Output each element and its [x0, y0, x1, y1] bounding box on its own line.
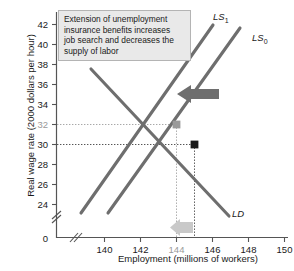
- y-axis-ticks: [52, 25, 57, 205]
- curve-label-ls1-text: LS: [213, 11, 225, 22]
- x-tick-150: 150: [272, 244, 294, 255]
- curve-label-ld: LD: [232, 208, 244, 219]
- y-axis-title: Real wage rate (2000 dollars per hour): [25, 26, 36, 206]
- y-axis-zero: 0: [26, 233, 48, 244]
- employment-decrease-arrow-icon: [170, 219, 193, 236]
- x-axis-ticks: [105, 238, 285, 243]
- curve-label-ls0-text: LS: [252, 32, 264, 43]
- note-line-4: supply of labor: [64, 46, 185, 57]
- x-axis-title: Employment (millions of workers): [118, 253, 258, 264]
- note-line-1: Extension of unemployment: [64, 14, 185, 25]
- curve-label-ls1-sub: 1: [225, 17, 229, 24]
- curve-label-ls0: LS0: [252, 32, 268, 45]
- marker-new-equilibrium: [173, 121, 181, 129]
- annotation-note-box: Extension of unemployment insurance bene…: [58, 10, 191, 61]
- marker-original-equilibrium: [191, 141, 199, 149]
- curve-label-ls0-sub: 0: [264, 38, 268, 45]
- x-tick-140: 140: [92, 244, 118, 255]
- labor-market-chart: 42 40 38 36 34 32 30 28 26 24 0 140 142 …: [0, 0, 293, 271]
- curve-label-ls1: LS1: [213, 11, 229, 24]
- note-line-2: insurance benefits increases: [64, 25, 185, 36]
- note-line-3: job search and decreases the: [64, 35, 185, 46]
